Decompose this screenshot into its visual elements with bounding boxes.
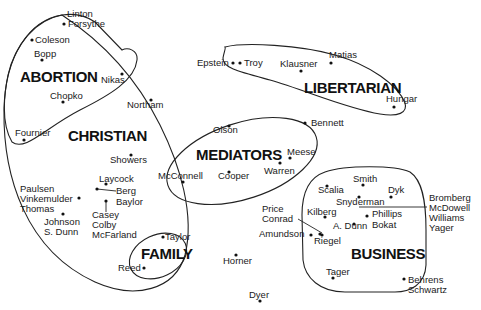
person-label-horner: Horner: [223, 255, 252, 266]
person-label-laycock: Laycock: [99, 173, 134, 184]
dot-phillips: [365, 214, 368, 217]
dot-behrens: [402, 277, 405, 280]
person-label-scalia: Scalia: [318, 184, 345, 195]
person-label-matias: Matias: [329, 49, 357, 60]
person-label-kilberg: Kilberg: [307, 206, 337, 217]
person-label-epstein: Epstein: [197, 57, 229, 68]
dot-troy: [238, 61, 241, 64]
person-label-bennett: Bennett: [311, 117, 344, 128]
group-label-family: FAMILY: [141, 245, 193, 262]
dot-casey: [104, 199, 107, 202]
person-label-amundson: Amundson: [259, 228, 304, 239]
person-label-snyderman: Snyderman: [336, 196, 385, 207]
person-label-bopp: Bopp: [34, 48, 56, 59]
group-label-business: BUSINESS: [351, 245, 426, 262]
person-label-dyk: Dyk: [388, 184, 405, 195]
person-label-yager: Yager: [429, 222, 454, 233]
person-label-schwartz: Schwartz: [408, 284, 447, 295]
group-label-abortion: ABORTION: [20, 68, 98, 85]
person-label-nikas: Nikas: [101, 74, 125, 85]
person-label-bokat: Bokat: [372, 219, 397, 230]
person-label-baylor: Baylor: [116, 196, 143, 207]
person-label-s-dunn: S. Dunn: [44, 226, 78, 237]
person-label-cooper: Cooper: [218, 170, 249, 181]
person-label-reed: Reed: [118, 262, 141, 273]
person-label-phillips: Phillips: [372, 208, 402, 219]
dot-klausner: [299, 69, 302, 72]
person-label-hungar: Hungar: [386, 93, 417, 104]
person-label-troy: Troy: [244, 57, 263, 68]
person-label-smith: Smith: [353, 173, 377, 184]
dot-epstein: [231, 61, 234, 64]
person-label-a-dunn: A. Dunn: [333, 220, 367, 231]
person-label-tager: Tager: [326, 266, 350, 277]
dot-vinkemulder: [77, 196, 80, 199]
person-label-berg: Berg: [116, 185, 136, 196]
person-label-showers: Showers: [110, 154, 147, 165]
person-label-olson: Olson: [213, 124, 238, 135]
dot-matias: [329, 61, 332, 64]
leader-berg: [97, 189, 116, 191]
person-label-conrad: Conrad: [262, 213, 293, 224]
person-label-chopko: Chopko: [50, 90, 83, 101]
person-label-fournier: Fournier: [15, 127, 50, 138]
group-label-mediators: MEDIATORS: [196, 146, 282, 163]
dot-forsythe: [62, 22, 65, 25]
person-label-forsythe: Forsythe: [68, 18, 105, 29]
person-label-mcconnell: McConnell: [158, 170, 203, 181]
dot-bennett: [303, 121, 306, 124]
person-label-meese: Meese: [287, 146, 316, 157]
person-label-coleson: Coleson: [35, 34, 70, 45]
person-label-klausner: Klausner: [280, 58, 318, 69]
person-label-thomas: Thomas: [20, 203, 55, 214]
dot-berg: [95, 187, 98, 190]
dot-fournier: [22, 138, 25, 141]
person-label-northam: Northam: [127, 99, 164, 110]
person-label-mcfarland: McFarland: [92, 229, 137, 240]
dot-hungar: [392, 105, 395, 108]
dot-reed: [142, 266, 145, 269]
dot-coleson: [30, 38, 33, 41]
political-groups-diagram: ABORTIONCHRISTIANLIBERTARIANMEDIATORSBUS…: [0, 0, 481, 310]
group-label-christian: CHRISTIAN: [68, 127, 147, 144]
person-label-taylor: Taylor: [165, 231, 190, 242]
person-label-riegel: Riegel: [314, 235, 341, 246]
dot-amundson: [309, 233, 312, 236]
person-label-warren: Warren: [264, 165, 295, 176]
person-label-dyer: Dyer: [249, 289, 269, 300]
dot-dyk: [389, 195, 392, 198]
